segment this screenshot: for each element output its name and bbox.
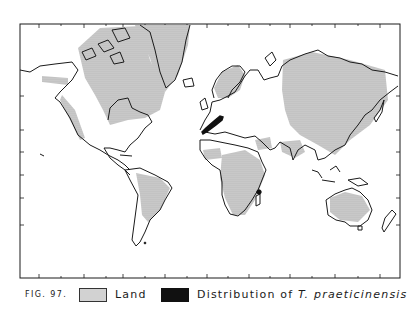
figure-legend: FIG. 97. Land Distribution of T. praetic…: [0, 286, 419, 306]
distribution-europe: [202, 116, 223, 134]
distribution-label: Distribution of T. praeticinensis: [197, 288, 408, 301]
distribution-label-prefix: Distribution of: [197, 288, 298, 301]
land-label: Land: [115, 288, 147, 301]
land-swatch: [79, 288, 107, 302]
distribution-madagascar: [257, 190, 261, 194]
world-map: [0, 0, 419, 286]
species-name: T. praeticinensis: [298, 288, 408, 301]
figure-number: FIG. 97.: [25, 290, 67, 299]
distribution-swatch: [161, 288, 189, 302]
